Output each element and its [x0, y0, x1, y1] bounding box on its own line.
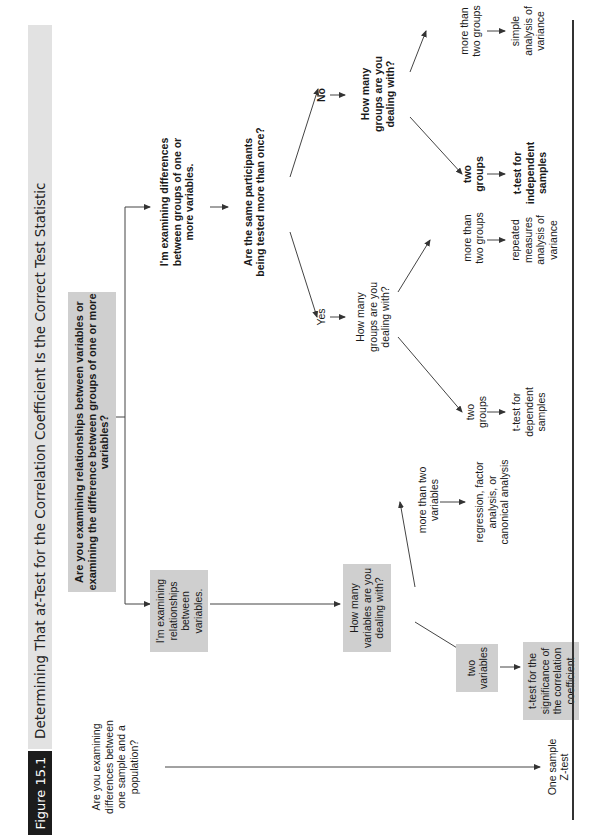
ttest-correlation-box: t-test for the significance of the corre… [523, 642, 579, 720]
two-groups-no-node: two groups [458, 154, 488, 194]
how-many-groups-no-node: How many groups are you dealing with? [348, 53, 408, 135]
sample-population-question: Are you examining differences between on… [65, 717, 165, 817]
more-groups-no-node: more than two groups [455, 3, 485, 59]
repeated-anova-node: repeated measures analysis of variance [506, 208, 562, 272]
bottom-rule [572, 20, 574, 820]
ttest-dependent-node: t-test for dependent samples [508, 382, 550, 442]
one-sample-z-node: One sample Z-test [543, 737, 573, 797]
root-question-box: Are you examining relationships between … [68, 292, 116, 592]
how-many-groups-yes-node: How many groups are you dealing with? [348, 277, 398, 357]
flowchart-figure: Figure 15.1 Determining That a t-Test fo… [0, 0, 593, 837]
more-groups-yes-node: more than two groups [458, 211, 488, 265]
no-label: No [312, 80, 330, 110]
simple-anova-node: simple analysis of variance [506, 1, 550, 61]
regression-node: regression, factor analysis, or canonica… [468, 457, 516, 547]
two-groups-yes-node: two groups [462, 392, 490, 432]
ttest-independent-node: t-test for independent samples [508, 137, 552, 209]
differences-node: I'm examining differences between groups… [150, 127, 204, 277]
more-than-two-variables-node: more than two variables [413, 459, 443, 541]
yes-label: Yes [312, 302, 330, 332]
two-variables-box: two variables [456, 644, 498, 692]
same-participants-question: Are the same participants being tested m… [232, 127, 276, 277]
how-many-variables-box: How many variables are you dealing with? [343, 564, 391, 652]
relationships-box: I'm examining relationships between vari… [150, 570, 208, 652]
